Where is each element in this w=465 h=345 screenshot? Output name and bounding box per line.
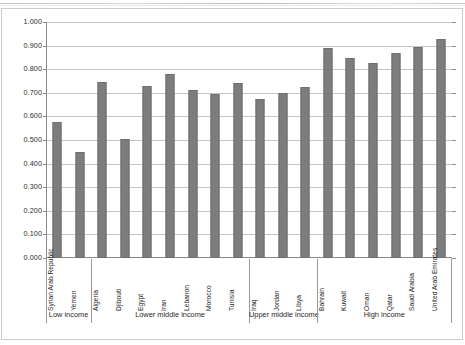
- y-axis-tick-right: [452, 116, 456, 117]
- y-axis-tick-label: 0.300: [2, 183, 42, 190]
- bar-slot: [46, 22, 69, 258]
- bar-slot: [159, 22, 182, 258]
- bar: [53, 122, 62, 258]
- bar: [391, 53, 400, 258]
- bar-slot: [339, 22, 362, 258]
- group-separator: [46, 259, 47, 311]
- y-axis-tick-right: [452, 93, 456, 94]
- y-axis-tick-label: 0.700: [2, 89, 42, 96]
- y-axis-tick-label: 0.400: [2, 160, 42, 167]
- y-axis-tick-right: [452, 46, 456, 47]
- bar-slot: [294, 22, 317, 258]
- y-axis-tick-right: [452, 211, 456, 212]
- y-axis-tick-label: 0.000: [2, 254, 42, 261]
- bar-chart: 1.0000.9000.8000.7000.6000.5000.4000.300…: [0, 0, 465, 345]
- group-label: Low income: [46, 309, 91, 320]
- bar: [369, 63, 378, 258]
- y-axis-tick-label: 0.100: [2, 230, 42, 237]
- bar-slot: [226, 22, 249, 258]
- y-axis-tick-right: [452, 22, 456, 23]
- bar-slot: [249, 22, 272, 258]
- y-axis-tick-label: 1.000: [2, 18, 42, 25]
- bar-slot: [272, 22, 295, 258]
- y-axis-tick-label: 0.200: [2, 207, 42, 214]
- y-axis-tick-right: [452, 69, 456, 70]
- bar: [166, 74, 175, 258]
- bar: [346, 58, 355, 258]
- group-labels: Low incomeLower middle incomeUpper middl…: [46, 309, 452, 325]
- y-axis-tick-label: 0.500: [2, 136, 42, 143]
- y-axis-tick-label: 0.600: [2, 112, 42, 119]
- bar: [143, 86, 152, 258]
- group-separator: [317, 259, 318, 311]
- bar: [323, 48, 332, 258]
- bar-slot: [384, 22, 407, 258]
- bar: [75, 152, 84, 258]
- group-separator: [91, 259, 92, 311]
- bar-slot: [317, 22, 340, 258]
- bar: [211, 94, 220, 258]
- y-axis-tick-right: [452, 140, 456, 141]
- bar-slot: [136, 22, 159, 258]
- y-axis-tick-right: [452, 258, 456, 259]
- bar: [233, 83, 242, 258]
- y-axis-tick-right: [452, 187, 456, 188]
- y-axis-tick-labels: 1.0000.9000.8000.7000.6000.5000.4000.300…: [0, 22, 42, 258]
- group-separator: [451, 259, 452, 311]
- bar-slot: [181, 22, 204, 258]
- bar: [120, 139, 129, 258]
- bar-slot: [69, 22, 92, 258]
- group-label: Upper middle income: [249, 309, 317, 320]
- bar-slot: [91, 22, 114, 258]
- y-axis-tick-label: 0.900: [2, 42, 42, 49]
- bar: [278, 93, 287, 258]
- bar: [256, 99, 265, 258]
- y-axis-tick-right: [452, 234, 456, 235]
- bar: [414, 47, 423, 258]
- bar: [188, 90, 197, 258]
- group-label: Lower middle income: [91, 309, 249, 320]
- y-axis-tick-right: [452, 164, 456, 165]
- bar: [98, 82, 107, 258]
- bar-slot: [204, 22, 227, 258]
- group-separators: [46, 259, 452, 311]
- bar-slot: [362, 22, 385, 258]
- group-label: High income: [317, 309, 452, 320]
- y-axis-tick-label: 0.800: [2, 65, 42, 72]
- bar-slot: [429, 22, 452, 258]
- bar: [436, 39, 445, 258]
- bar: [301, 87, 310, 258]
- bar-slot: [114, 22, 137, 258]
- bar-slot: [407, 22, 430, 258]
- bar-series: [46, 22, 452, 258]
- group-separator: [249, 259, 250, 311]
